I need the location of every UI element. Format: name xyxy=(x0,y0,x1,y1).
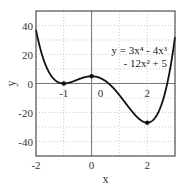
y-tick-label: -40 xyxy=(18,136,33,148)
chart: -102-202-40-2002040 x y y = 3x⁴ - 4x³ - … xyxy=(0,0,181,186)
y-tick-label: 0 xyxy=(28,78,34,90)
critical-point-marker xyxy=(62,81,66,85)
critical-point-marker xyxy=(89,74,93,78)
critical-point-label: 0 xyxy=(98,87,104,99)
y-tick-label: 20 xyxy=(22,49,34,61)
critical-point-marker xyxy=(145,120,149,124)
y-tick-label: -20 xyxy=(18,107,33,119)
critical-point-label: -1 xyxy=(59,87,68,99)
x-tick-label: 2 xyxy=(144,159,150,171)
x-axis-label: x xyxy=(103,172,109,186)
critical-point-label: 2 xyxy=(144,87,150,99)
equation-line-2: - 12x² + 5 xyxy=(124,57,168,69)
x-tick-label: -2 xyxy=(31,159,40,171)
axes xyxy=(36,11,175,156)
y-axis-label: y xyxy=(4,81,18,87)
equation-line-1: y = 3x⁴ - 4x³ xyxy=(112,44,168,56)
y-tick-label: 40 xyxy=(22,20,34,32)
x-tick-label: 0 xyxy=(89,159,95,171)
